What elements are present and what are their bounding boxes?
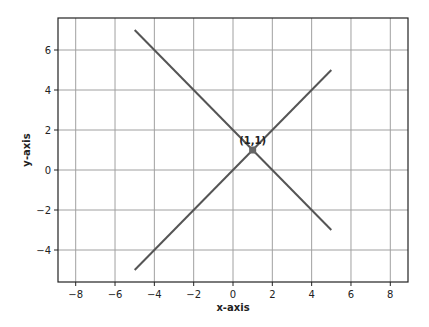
x-tick-label: −8 (68, 289, 83, 300)
x-tick-label: −4 (147, 289, 162, 300)
y-axis-label: y-axis (21, 133, 32, 166)
x-tick-label: −2 (186, 289, 201, 300)
x-tick-label: 0 (230, 289, 236, 300)
y-tick-label: 2 (45, 125, 51, 136)
x-tick-label: 4 (308, 289, 314, 300)
y-axis-ticks: −4−20246 (36, 45, 58, 256)
y-tick-label: 6 (45, 45, 51, 56)
x-axis-label: x-axis (216, 302, 249, 313)
x-tick-label: −6 (108, 289, 123, 300)
x-tick-label: 8 (387, 289, 393, 300)
y-tick-label: −2 (36, 205, 51, 216)
x-tick-label: 6 (348, 289, 354, 300)
line-chart: (1,1) −8−6−4−202468 −4−20246 x-axis y-ax… (0, 0, 429, 327)
x-axis-ticks: −8−6−4−202468 (68, 282, 393, 300)
grid-lines (58, 18, 408, 282)
intersection-annotation: (1,1) (239, 135, 266, 146)
x-tick-label: 2 (269, 289, 275, 300)
intersection-marker (249, 147, 256, 154)
y-tick-label: 4 (45, 85, 51, 96)
annotations: (1,1) (239, 135, 266, 154)
y-tick-label: 0 (45, 165, 51, 176)
y-tick-label: −4 (36, 245, 51, 256)
